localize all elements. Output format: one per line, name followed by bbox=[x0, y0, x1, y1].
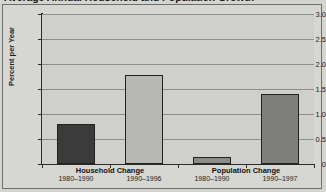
gridline bbox=[42, 64, 314, 65]
gridline bbox=[42, 39, 314, 40]
chart-title: Average Annual Household and Population … bbox=[4, 0, 322, 3]
x-tick-mark bbox=[42, 164, 43, 168]
plot-area bbox=[42, 14, 314, 164]
x-tick-mark bbox=[178, 164, 179, 168]
bar bbox=[261, 94, 299, 164]
gridline bbox=[42, 14, 314, 15]
bar bbox=[193, 157, 231, 165]
group-label: Household Change bbox=[50, 166, 170, 175]
x-tick-mark bbox=[314, 164, 315, 168]
bar bbox=[57, 124, 95, 164]
x-tick-label: 1990–1997 bbox=[240, 175, 320, 182]
gridline bbox=[42, 89, 314, 90]
chart-figure: Average Annual Household and Population … bbox=[0, 0, 326, 192]
bar bbox=[125, 75, 163, 164]
y-axis-label: Percent per Year bbox=[7, 20, 16, 94]
group-label: Population Change bbox=[186, 166, 306, 175]
